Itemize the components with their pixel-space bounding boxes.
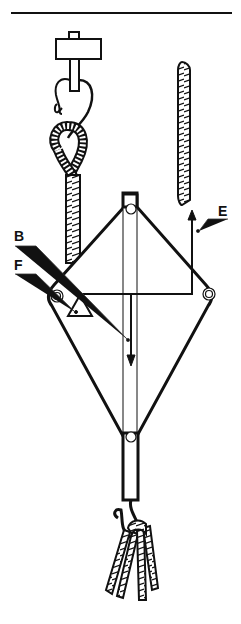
rope-left: [66, 175, 80, 263]
label-E: E: [218, 204, 227, 218]
rope-right: [178, 62, 190, 205]
label-B: B: [14, 229, 24, 243]
label-F: F: [14, 258, 23, 272]
rope-bundle: [106, 521, 158, 600]
rope-loop: [54, 126, 83, 178]
diagram-canvas: [0, 0, 241, 624]
pivot-right: [203, 288, 215, 300]
